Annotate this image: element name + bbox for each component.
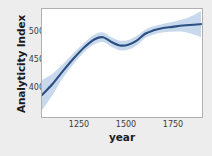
- y-axis-title: Analyticity Index: [15, 9, 27, 119]
- x-axis-title: year: [41, 131, 203, 143]
- chart-figure: Analyticity Index 500 450 400 1250 1500 …: [0, 0, 212, 156]
- plot-panel: [41, 8, 203, 118]
- plot-area: [42, 9, 202, 117]
- x-axis-tick-label-1750: 1750: [153, 120, 193, 129]
- x-axis-tick-label-1250: 1250: [59, 120, 99, 129]
- x-axis-tick-label-1500: 1500: [106, 120, 146, 129]
- trend-line: [42, 24, 201, 95]
